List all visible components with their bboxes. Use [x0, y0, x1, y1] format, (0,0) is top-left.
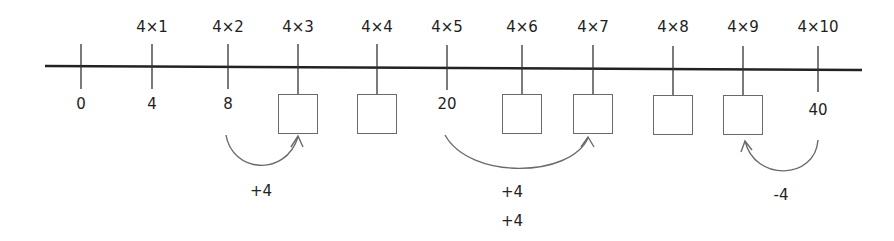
step-label-minus4: -4 — [774, 188, 789, 203]
step-label-plus4-a: +4 — [501, 185, 523, 200]
top-label-4x1: 4×1 — [136, 20, 168, 35]
answer-box-4x3[interactable] — [278, 94, 318, 134]
number-line-diagram: 4×1 4×2 4×3 4×4 4×5 4×6 4×7 4×8 4×9 4×10… — [0, 0, 894, 241]
jump-arc-40-to-36 — [745, 140, 818, 171]
value-label-8: 8 — [223, 97, 233, 112]
jump-arc-20-to-28 — [445, 135, 588, 168]
answer-box-4x6[interactable] — [502, 94, 542, 134]
answer-box-4x4[interactable] — [357, 94, 397, 134]
answer-box-4x7[interactable] — [573, 94, 613, 134]
step-label-plus4: +4 — [250, 184, 272, 199]
top-label-4x7: 4×7 — [577, 20, 609, 35]
top-label-4x3: 4×3 — [282, 20, 314, 35]
number-line-axis — [45, 66, 862, 70]
top-label-4x4: 4×4 — [361, 20, 393, 35]
top-label-4x9: 4×9 — [727, 20, 759, 35]
top-label-4x5: 4×5 — [431, 20, 463, 35]
top-label-4x8: 4×8 — [657, 20, 689, 35]
top-label-4x2: 4×2 — [212, 20, 244, 35]
top-label-4x6: 4×6 — [506, 20, 538, 35]
step-label-plus4-b: +4 — [501, 214, 523, 229]
value-label-4: 4 — [147, 97, 157, 112]
value-label-0: 0 — [76, 97, 86, 112]
answer-box-4x9[interactable] — [723, 95, 763, 135]
top-label-4x10: 4×10 — [797, 20, 838, 35]
value-label-20: 20 — [437, 97, 456, 112]
value-label-40: 40 — [808, 103, 827, 118]
jump-arc-8-to-12 — [226, 135, 298, 165]
answer-box-4x8[interactable] — [653, 95, 693, 135]
